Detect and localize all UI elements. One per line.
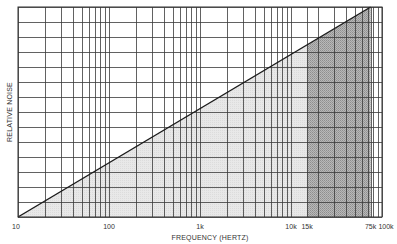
x-axis-title: FREQUENCY (HERTZ) — [171, 234, 248, 242]
x-tick-label: 10 — [12, 223, 20, 230]
x-tick-labels: 101001k10k15k75k100k — [12, 223, 394, 230]
x-tick-label: 15k — [301, 223, 313, 230]
x-tick-label: 75k — [365, 223, 377, 230]
x-tick-label: 1k — [196, 223, 204, 230]
noise-frequency-chart: 101001k10k15k75k100k FREQUENCY (HERTZ) R… — [0, 0, 397, 244]
x-tick-label: 100k — [378, 223, 394, 230]
y-axis-title: RELATIVE NOISE — [6, 82, 13, 142]
x-tick-label: 100 — [103, 223, 115, 230]
x-tick-label: 10k — [285, 223, 297, 230]
